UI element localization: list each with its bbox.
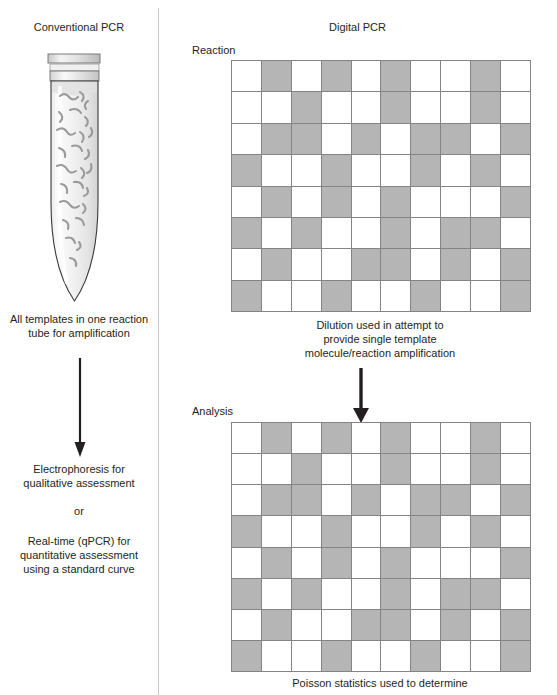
partition-cell <box>262 281 291 311</box>
partition-cell <box>352 249 381 279</box>
partition-cell <box>501 485 530 515</box>
partition-cell <box>262 610 291 640</box>
partition-cell <box>441 485 470 515</box>
partition-cell <box>322 548 351 578</box>
partition-cell <box>441 423 470 453</box>
partition-cell <box>411 187 440 217</box>
partition-cell <box>232 610 261 640</box>
partition-cell <box>471 92 500 122</box>
partition-cell <box>292 641 321 671</box>
partition-cell <box>501 579 530 609</box>
partition-cell <box>411 516 440 546</box>
partition-cell <box>262 548 291 578</box>
tube-svg <box>47 52 117 307</box>
partition-cell <box>352 485 381 515</box>
partition-cell <box>441 516 470 546</box>
section-label-reaction: Reaction <box>192 43 312 57</box>
partition-cell <box>441 610 470 640</box>
partition-cell <box>322 187 351 217</box>
partition-cell <box>262 641 291 671</box>
partition-cell <box>262 61 291 91</box>
partition-cell <box>411 579 440 609</box>
partition-cell <box>232 579 261 609</box>
down-arrow-left <box>74 358 86 458</box>
caption-tube: All templates in one reaction tube for a… <box>0 312 158 340</box>
tube-collar <box>50 71 99 81</box>
partition-cell <box>411 610 440 640</box>
partition-cell <box>411 485 440 515</box>
partition-cell <box>232 454 261 484</box>
partition-cell <box>292 485 321 515</box>
partition-cell <box>501 187 530 217</box>
partition-cell <box>471 485 500 515</box>
reaction-partition-grid <box>231 60 531 312</box>
down-arrow-icon <box>352 368 370 424</box>
partition-cell <box>292 516 321 546</box>
partition-cell <box>471 218 500 248</box>
partition-cell <box>232 61 261 91</box>
partition-cell <box>411 218 440 248</box>
section-label-analysis: Analysis <box>192 404 312 418</box>
partition-cell <box>411 281 440 311</box>
partition-cell <box>441 249 470 279</box>
partition-cell <box>471 155 500 185</box>
partition-cell <box>352 61 381 91</box>
partition-cell <box>441 155 470 185</box>
microcentrifuge-tube-illustration <box>47 52 117 307</box>
partition-cell <box>292 249 321 279</box>
panel-divider <box>158 8 159 695</box>
partition-cell <box>501 218 530 248</box>
partition-cell <box>411 454 440 484</box>
partition-cell <box>292 155 321 185</box>
partition-cell <box>352 92 381 122</box>
partition-cell <box>232 485 261 515</box>
partition-cell <box>381 610 410 640</box>
partition-cell <box>322 454 351 484</box>
partition-cell <box>471 548 500 578</box>
partition-cell <box>411 92 440 122</box>
partition-cell <box>262 249 291 279</box>
partition-cell <box>441 61 470 91</box>
partition-cell <box>322 610 351 640</box>
partition-cell <box>322 641 351 671</box>
partition-cell <box>352 516 381 546</box>
partition-cell <box>232 155 261 185</box>
partition-cell <box>292 423 321 453</box>
partition-cell <box>232 124 261 154</box>
partition-cell <box>471 579 500 609</box>
partition-cell <box>501 61 530 91</box>
partition-cell <box>352 579 381 609</box>
partition-cell <box>352 423 381 453</box>
caption-poisson: Poisson statistics used to determine <box>222 676 538 690</box>
partition-cell <box>232 516 261 546</box>
tube-cap <box>48 54 100 71</box>
partition-cell <box>471 124 500 154</box>
partition-cell <box>352 187 381 217</box>
partition-cell <box>232 423 261 453</box>
partition-cell <box>232 218 261 248</box>
partition-cell <box>381 249 410 279</box>
partition-cell <box>381 61 410 91</box>
partition-cell <box>292 454 321 484</box>
partition-cell <box>322 579 351 609</box>
partition-cell <box>471 454 500 484</box>
partition-cell <box>322 281 351 311</box>
partition-cell <box>381 454 410 484</box>
partition-cell <box>441 548 470 578</box>
analysis-partition-grid <box>231 422 531 672</box>
partition-cell <box>292 579 321 609</box>
partition-cell <box>501 516 530 546</box>
partition-cell <box>381 548 410 578</box>
partition-cell <box>381 218 410 248</box>
partition-cell <box>441 187 470 217</box>
caption-qpcr: Real-time (qPCR) for quantitative assess… <box>0 534 158 576</box>
partition-cell <box>471 249 500 279</box>
partition-cell <box>501 641 530 671</box>
partition-cell <box>501 249 530 279</box>
partition-cell <box>381 124 410 154</box>
partition-cell <box>292 61 321 91</box>
partition-cell <box>381 485 410 515</box>
partition-cell <box>411 249 440 279</box>
partition-cell <box>441 641 470 671</box>
partition-cell <box>292 610 321 640</box>
